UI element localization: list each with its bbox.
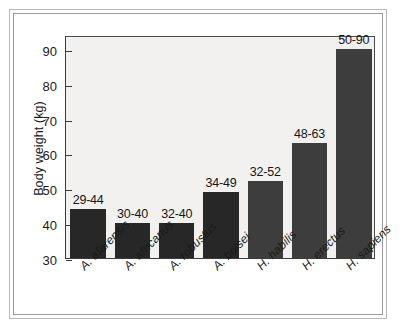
bars-layer: 29-4430-4032-4034-4932-5248-6350-90	[66, 37, 374, 258]
bar[interactable]: 50-90	[336, 35, 371, 258]
y-tick-label: 80	[26, 79, 66, 93]
plot-area: Body weight (kg) 30405060708090 29-4430-…	[65, 36, 375, 259]
y-tick-label: 90	[26, 44, 66, 58]
bar-value-label: 29-44	[73, 193, 104, 207]
bar[interactable]: 48-63	[292, 35, 327, 258]
y-tick-label: 50	[26, 183, 66, 197]
y-tick-label: 70	[26, 114, 66, 128]
bar-value-label: 48-63	[294, 127, 325, 141]
y-tick-label: 30	[26, 253, 66, 267]
x-axis-labels: A. afarensisA. africanusA. robustusA. bo…	[65, 259, 375, 319]
y-tick-label: 60	[26, 148, 66, 162]
chart-figure: Body weight (kg) 30405060708090 29-4430-…	[0, 0, 400, 330]
bar-value-label: 34-49	[205, 176, 236, 190]
bar[interactable]: 32-52	[248, 35, 283, 258]
bar-value-label: 50-90	[338, 33, 369, 47]
bar-value-label: 32-52	[250, 165, 281, 179]
bar[interactable]: 29-44	[70, 35, 105, 258]
y-tick-label: 40	[26, 218, 66, 232]
